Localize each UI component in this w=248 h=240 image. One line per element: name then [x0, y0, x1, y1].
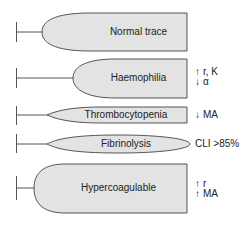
label-hypercoagulable: Hypercoagulable [50, 182, 187, 193]
label-thrombocytopenia: Thrombocytopenia [65, 109, 187, 120]
note-thrombocytopenia: ↓MA [195, 110, 218, 120]
note-fibrinolysis: CLI >85% [195, 139, 239, 149]
label-haemophilia: Haemophilia [90, 72, 187, 83]
note-hypercoagulable: ↑r ↑MA [195, 179, 218, 199]
label-normal-trace: Normal trace [90, 26, 187, 37]
arrow-up-icon: ↑ [195, 189, 203, 199]
note-haemophilia: ↑r, K ↓α [195, 67, 218, 87]
label-fibrinolysis: Fibrinolysis [65, 138, 187, 149]
arrow-down-icon: ↓ [195, 110, 203, 120]
arrow-down-icon: ↓ [195, 77, 203, 87]
